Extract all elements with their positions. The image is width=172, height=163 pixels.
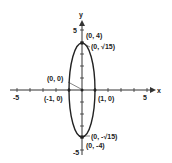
point-right: [94, 89, 97, 92]
y-tick-label-pos5: 5: [73, 27, 77, 34]
ellipse-diagram: x y -5 5 5 -5 (0, 4) (0, √15) (0, 0) (-1…: [0, 0, 172, 163]
label-focus-bottom: (0, -√15): [91, 133, 117, 141]
label-bottom: (0, -4): [86, 142, 105, 150]
label-center: (0, 0): [47, 75, 63, 83]
x-axis-label: x: [157, 87, 161, 94]
point-left: [68, 89, 71, 92]
x-tick-label-neg5: -5: [13, 94, 19, 101]
y-axis-label: y: [79, 11, 83, 19]
point-bottom: [80, 135, 84, 139]
label-left: (-1, 0): [44, 95, 63, 103]
label-focus-top: (0, √15): [91, 43, 115, 51]
x-axis-arrow-icon: [150, 87, 156, 93]
label-right: (1, 0): [98, 95, 114, 103]
center-leader: [68, 82, 81, 89]
point-top: [80, 41, 84, 45]
diagram-canvas: x y -5 5 5 -5 (0, 4) (0, √15) (0, 0) (-1…: [0, 0, 172, 163]
label-top: (0, 4): [86, 32, 102, 40]
y-axis-arrow-icon: [79, 20, 85, 26]
x-tick-label-pos5: 5: [143, 94, 147, 101]
y-tick-label-neg5: -5: [73, 149, 79, 156]
